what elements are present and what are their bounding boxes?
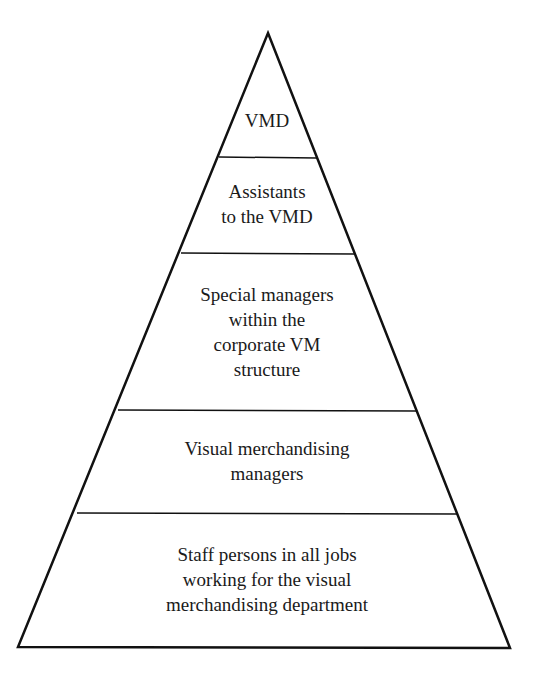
level-3-special-managers: Special managers within the corporate VM… — [0, 282, 534, 382]
divider-1 — [219, 157, 317, 158]
level-5-staff: Staff persons in all jobs working for th… — [0, 542, 534, 617]
divider-4 — [77, 513, 458, 514]
level-4-vm-managers: Visual merchandising managers — [0, 436, 534, 486]
divider-2 — [181, 253, 355, 254]
level-1-vmd: VMD — [0, 108, 534, 133]
level-2-assistants: Assistants to the VMD — [0, 179, 534, 229]
divider-3 — [118, 410, 417, 411]
